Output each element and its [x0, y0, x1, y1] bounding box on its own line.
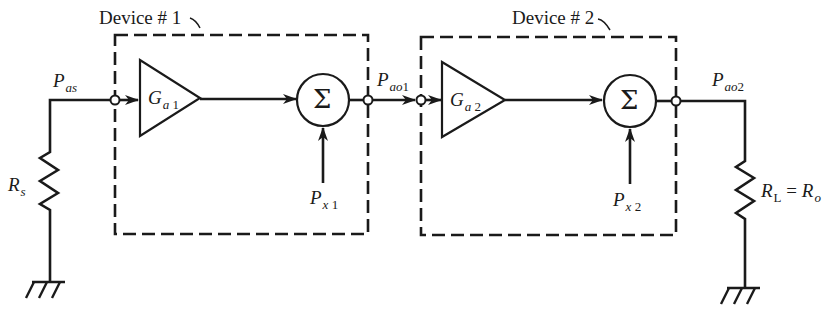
device-1-pointer: [190, 18, 200, 28]
device-2-input-terminal: [417, 96, 426, 105]
gain-2-label: Ga 2: [450, 90, 481, 109]
device-1-input-terminal: [111, 96, 120, 105]
device-2-output-terminal: [672, 97, 681, 106]
summer-1-symbol: Σ: [313, 86, 331, 112]
device-1-label: Device # 1: [99, 8, 181, 27]
source-resistor-label: Rs: [8, 175, 26, 194]
diagram-canvas: Device # 1 Device # 2 Σ Σ Ga 1 Ga 2 Pas …: [0, 0, 834, 324]
load-resistor-icon: [736, 158, 754, 222]
noise-input-2-label: Px 2: [613, 190, 641, 209]
device-1-output-power-label: Pao1: [377, 70, 409, 89]
ground-icon: [721, 288, 760, 304]
device-2-output-power-label: Pao2: [712, 70, 744, 89]
diagram-lines: [0, 0, 834, 324]
device-1-output-terminal: [364, 96, 373, 105]
load-resistor-label: RL = Ro: [761, 181, 821, 200]
source-resistor-icon: [40, 150, 58, 215]
source-power-label: Pas: [53, 71, 77, 90]
gain-1-label: Ga 1: [148, 88, 179, 107]
summer-2-symbol: Σ: [620, 87, 638, 113]
device-2-pointer: [598, 19, 610, 30]
ground-icon: [26, 282, 65, 298]
noise-input-1-label: Px 1: [310, 188, 338, 207]
device-2-label: Device # 2: [512, 8, 594, 27]
load-branch: [681, 101, 754, 288]
source-branch: [40, 100, 110, 282]
